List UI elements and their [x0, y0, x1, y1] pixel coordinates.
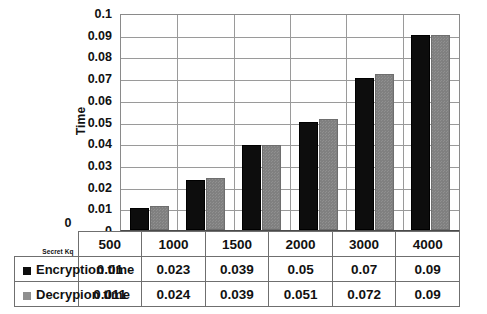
- x-axis-category-label: 2000: [269, 232, 333, 257]
- y-axis-tick-label: 0.1: [95, 8, 112, 21]
- table-cell-value: 0.024: [142, 282, 206, 307]
- table-cell-value: 0.072: [332, 282, 396, 307]
- gray-square-icon: [23, 292, 31, 300]
- table-header-row: 0Secret Kq50010001500200030004000: [15, 232, 460, 257]
- black-square-icon: [23, 267, 31, 275]
- table-row: Encryption time0.010.0230.0390.050.070.0…: [15, 257, 460, 282]
- y-axis-tick-label: 0.07: [88, 73, 112, 86]
- x-axis-category-label: 1500: [205, 232, 269, 257]
- bar-encryption-time: [186, 180, 205, 230]
- y-axis-tick-label: 0.02: [88, 181, 112, 194]
- bar-decryption-time: [262, 145, 281, 230]
- y-axis-tick-label: 0.08: [88, 51, 112, 64]
- legend-row-label: Decrypion time: [15, 282, 79, 307]
- bar-groups: [121, 15, 459, 230]
- table-cell-value: 0.051: [269, 282, 333, 307]
- bar-group: [177, 15, 233, 230]
- bar-decryption-time: [319, 119, 338, 230]
- bar-decryption-time: [431, 35, 450, 230]
- bar-encryption-time: [242, 145, 261, 230]
- table-cell-value: 0.07: [332, 257, 396, 282]
- bar-group: [121, 15, 177, 230]
- bar-decryption-time: [206, 178, 225, 230]
- y-axis-tick-label: 0.04: [88, 138, 112, 151]
- chart-figure: Time 0.10.090.080.070.060.050.040.030.02…: [0, 0, 487, 314]
- x-axis-title: Secret Kq: [42, 248, 73, 255]
- y-axis-tick-label: 0.09: [88, 29, 112, 42]
- table-row: Decrypion time0.0110.0240.0390.0510.0720…: [15, 282, 460, 307]
- plot-area: [120, 14, 460, 231]
- table-cell-value: 0.039: [205, 257, 269, 282]
- y-axis-tick-label: 0.03: [88, 160, 112, 173]
- bar-encryption-time: [355, 78, 374, 230]
- table-cell-value: 0.039: [205, 282, 269, 307]
- table-cell-value: 0.05: [269, 257, 333, 282]
- bar-encryption-time: [299, 122, 318, 231]
- bar-encryption-time: [411, 35, 430, 230]
- bar-encryption-time: [130, 208, 149, 230]
- y-axis-tick-label: 0.05: [88, 116, 112, 129]
- bar-decryption-time: [375, 74, 394, 230]
- table-cell-value: 0.09: [396, 282, 460, 307]
- bar-group: [346, 15, 402, 230]
- x-axis-title-cell: 0Secret Kq: [15, 232, 79, 257]
- bar-group: [290, 15, 346, 230]
- y-axis-tick-label: 0.06: [88, 95, 112, 108]
- y-axis-zero-label: 0: [65, 216, 72, 230]
- bar-decryption-time: [150, 206, 169, 230]
- data-table: 0Secret Kq50010001500200030004000Encrypt…: [14, 231, 460, 307]
- y-axis-tick-labels: 0.10.090.080.070.060.050.040.030.020.010: [64, 8, 116, 240]
- x-axis-category-label: 3000: [332, 232, 396, 257]
- x-axis-category-label: 4000: [396, 232, 460, 257]
- y-axis-tick-label: 0.01: [88, 203, 112, 216]
- x-axis-category-label: 1000: [142, 232, 206, 257]
- x-axis-category-label: 500: [78, 232, 142, 257]
- table-cell-value: 0.023: [142, 257, 206, 282]
- bar-group: [403, 15, 459, 230]
- bar-group: [234, 15, 290, 230]
- legend-row-label: Encryption time: [15, 257, 79, 282]
- table-cell-value: 0.09: [396, 257, 460, 282]
